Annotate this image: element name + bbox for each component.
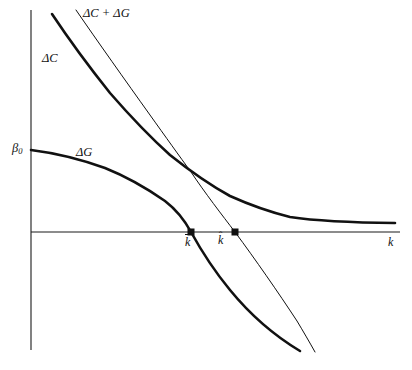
economics-figure: ΔC + ΔG ΔC ΔG β0 k ˆk k <box>0 0 412 370</box>
delta-c-plus-delta-g-line <box>76 10 315 352</box>
k-hat-point <box>232 229 239 236</box>
k-hat-glyph: ˆk <box>218 234 223 246</box>
delta-g-label: ΔG <box>76 146 92 159</box>
k-bar-letter: k <box>185 235 190 249</box>
delta-g-curve <box>31 150 300 351</box>
delta-c-plus-delta-g-label: ΔC + ΔG <box>83 7 130 20</box>
delta-c-label: ΔC <box>42 52 58 65</box>
circumflex-accent: ˆ <box>219 230 223 241</box>
delta-c-curve <box>52 14 395 223</box>
figure-canvas <box>0 0 412 370</box>
k-bar-tick-label: k <box>185 236 190 248</box>
beta-subscript: 0 <box>18 146 22 156</box>
overbar-accent <box>185 234 189 235</box>
beta-zero-intercept-label: β0 <box>12 142 22 155</box>
x-axis-label: k <box>388 236 393 248</box>
k-hat-tick-label: ˆk <box>218 234 223 246</box>
k-bar-glyph: k <box>185 236 190 248</box>
